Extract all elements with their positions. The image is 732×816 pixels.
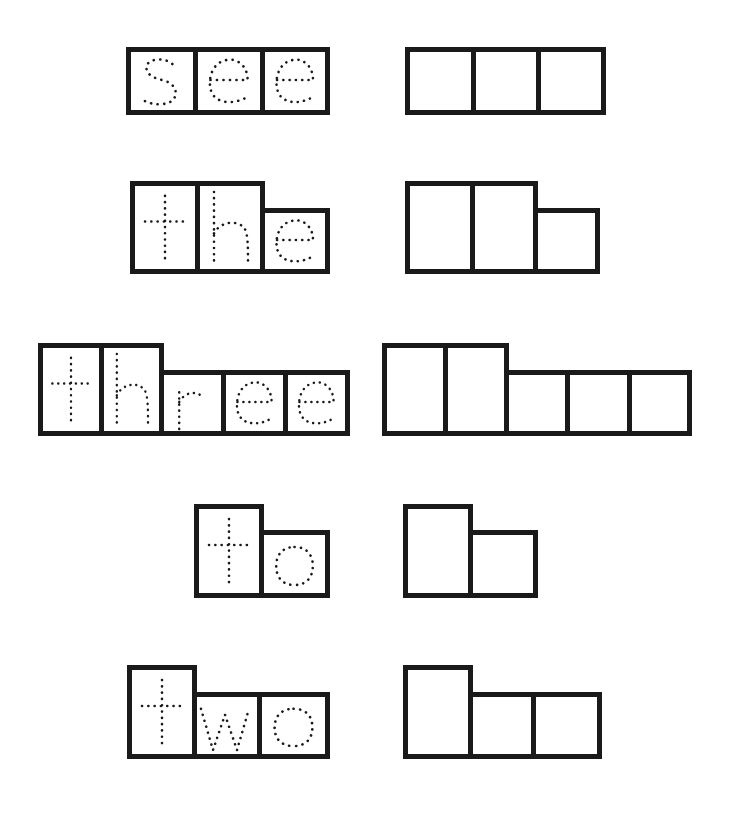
write-letter-box-to-1[interactable]	[403, 504, 473, 598]
dotted-letter-h-icon	[200, 186, 260, 269]
dotted-letter-o-icon	[262, 697, 325, 754]
trace-letter-box-two-o	[257, 692, 330, 759]
trace-letter-box-three-e	[283, 370, 350, 436]
dotted-letter-r-icon	[164, 375, 221, 431]
trace-letter-box-see-e	[260, 47, 330, 115]
trace-letter-box-the-t	[130, 181, 200, 274]
write-letter-box-the-1[interactable]	[405, 181, 475, 274]
write-letter-box-the-2[interactable]	[470, 181, 538, 274]
trace-letter-box-three-e	[221, 370, 288, 436]
trace-letter-box-to-t	[194, 504, 264, 598]
dotted-letter-e-icon	[198, 52, 260, 110]
dotted-letter-e-icon	[265, 213, 325, 269]
dotted-letter-t-icon	[135, 186, 195, 269]
write-letter-box-two-2[interactable]	[468, 692, 536, 759]
trace-letter-box-the-h	[195, 181, 265, 274]
write-letter-box-see-2[interactable]	[471, 47, 541, 115]
dotted-letter-e-icon	[288, 375, 345, 431]
write-letter-box-three-5[interactable]	[627, 370, 692, 436]
dotted-letter-t-icon	[43, 348, 99, 431]
dotted-letter-t-icon	[199, 509, 259, 593]
dotted-letter-s-icon	[131, 52, 193, 110]
write-letter-box-three-3[interactable]	[504, 370, 570, 436]
trace-letter-box-to-o	[259, 530, 330, 598]
write-letter-box-see-1[interactable]	[405, 47, 476, 115]
write-letter-box-three-4[interactable]	[565, 370, 632, 436]
write-letter-box-three-1[interactable]	[382, 343, 448, 436]
write-letter-box-three-2[interactable]	[443, 343, 509, 436]
trace-letter-box-two-t	[127, 665, 197, 759]
write-letter-box-see-3[interactable]	[536, 47, 606, 115]
trace-letter-box-see-s	[126, 47, 198, 115]
dotted-letter-h-icon	[104, 348, 159, 431]
dotted-letter-t-icon	[132, 670, 192, 754]
trace-letter-box-three-r	[159, 370, 226, 436]
write-letter-box-the-3[interactable]	[533, 208, 600, 274]
dotted-letter-o-icon	[264, 535, 325, 593]
write-letter-box-two-1[interactable]	[403, 665, 473, 759]
trace-letter-box-three-t	[38, 343, 104, 436]
trace-letter-box-see-e	[193, 47, 265, 115]
dotted-letter-e-icon	[265, 52, 325, 110]
trace-letter-box-the-e	[260, 208, 330, 274]
dotted-letter-w-icon	[197, 697, 257, 754]
write-letter-box-two-3[interactable]	[531, 692, 602, 759]
write-letter-box-to-2[interactable]	[468, 530, 538, 598]
trace-letter-box-three-h	[99, 343, 164, 436]
trace-letter-box-two-w	[192, 692, 262, 759]
dotted-letter-e-icon	[226, 375, 283, 431]
